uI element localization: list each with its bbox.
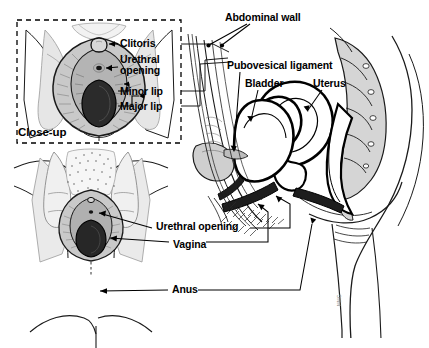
anatomy-figure: Clitoris Urethral opening Minor lip Majo… <box>0 0 429 348</box>
label-minor-lip: Minor lip <box>120 86 163 97</box>
urethral-opening-inset-marker <box>96 66 102 70</box>
urethral-opening-perineal-marker <box>89 210 93 214</box>
label-close-up-caption: Close-up <box>18 126 66 138</box>
anatomy-illustration <box>0 0 429 348</box>
label-vagina: Vagina <box>173 239 206 250</box>
label-uterus: Uterus <box>313 78 346 89</box>
label-urethral-opening-inset-line2: opening <box>120 65 160 76</box>
label-anus: Anus <box>172 284 198 295</box>
artist-credit: MMG <box>337 294 342 306</box>
vaginal-orifice-perineal <box>76 220 106 257</box>
label-abdominal-wall: Abdominal wall <box>225 12 301 23</box>
label-pubovesical-ligament: Pubovesical ligament <box>227 60 332 71</box>
label-clitoris: Clitoris <box>120 38 155 49</box>
label-major-lip: Major lip <box>120 101 162 112</box>
label-bladder: Bladder <box>245 78 283 89</box>
clitoris-shape <box>91 38 107 52</box>
label-urethral-opening-inset: Urethral opening <box>120 54 160 77</box>
label-urethral-opening: Urethral opening <box>156 221 238 232</box>
vaginal-orifice-inset <box>82 80 116 127</box>
